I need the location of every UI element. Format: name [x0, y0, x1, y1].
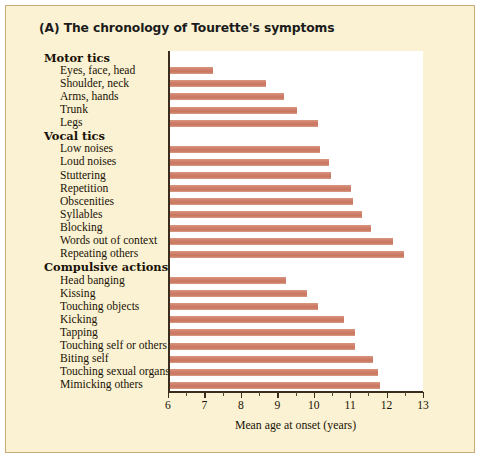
bar	[169, 93, 284, 100]
x-tick-label: 7	[189, 399, 219, 412]
bar	[169, 107, 297, 114]
bar	[169, 67, 213, 74]
category-label: Kissing	[60, 287, 95, 301]
category-label: Touching self or others	[60, 339, 167, 353]
bar	[169, 290, 307, 297]
bar	[169, 316, 344, 323]
x-tick-label: 9	[262, 399, 292, 412]
bar	[169, 356, 373, 363]
group-header-label: Compulsive actions	[44, 260, 168, 274]
x-tick-minor	[186, 392, 187, 396]
category-label: Legs	[60, 116, 83, 130]
bar	[169, 120, 318, 127]
category-label: Obscenities	[60, 195, 114, 209]
x-tick-minor	[223, 392, 224, 396]
figure-panel: (A) The chronology of Tourette's symptom…	[5, 5, 475, 453]
x-tick-label: 13	[408, 399, 438, 412]
bar	[169, 251, 404, 258]
bar	[169, 369, 378, 376]
category-label: Touching objects	[60, 300, 139, 314]
x-tick-label: 12	[372, 399, 402, 412]
category-label: Touching sexual organs	[60, 365, 170, 379]
x-tick-major	[204, 392, 205, 398]
category-label: Arms, hands	[60, 90, 119, 104]
category-label: Words out of context	[60, 234, 157, 248]
bar-chart: Motor ticsEyes, face, headShoulder, neck…	[6, 6, 476, 454]
category-label-column: Motor ticsEyes, face, headShoulder, neck…	[6, 51, 166, 392]
bar	[169, 159, 329, 166]
group-header-label: Motor tics	[44, 51, 110, 65]
bar	[169, 185, 351, 192]
category-label: Mimicking others	[60, 378, 143, 392]
x-tick-label: 11	[335, 399, 365, 412]
bar	[169, 211, 362, 218]
category-label: Shoulder, neck	[60, 77, 129, 91]
bar-series	[168, 51, 423, 392]
category-label: Trunk	[60, 103, 88, 117]
x-tick-label: 6	[153, 399, 183, 412]
category-label: Repeating others	[60, 247, 138, 261]
bar	[169, 238, 393, 245]
bar	[169, 303, 318, 310]
x-tick-major	[423, 392, 424, 398]
bar	[169, 146, 320, 153]
x-tick-major	[241, 392, 242, 398]
x-tick-major	[350, 392, 351, 398]
x-tick-minor	[259, 392, 260, 396]
bar	[169, 225, 371, 232]
x-tick-major	[277, 392, 278, 398]
bar	[169, 172, 331, 179]
category-label: Kicking	[60, 313, 97, 327]
bar	[169, 329, 355, 336]
x-tick-minor	[405, 392, 406, 396]
x-tick-major	[387, 392, 388, 398]
category-label: Eyes, face, head	[60, 64, 135, 78]
x-tick-major	[314, 392, 315, 398]
x-tick-label: 10	[299, 399, 329, 412]
category-label: Stuttering	[60, 169, 106, 183]
category-label: Biting self	[60, 352, 109, 366]
x-axis-title: Mean age at onset (years)	[168, 418, 423, 433]
group-header-label: Vocal tics	[44, 129, 105, 143]
category-label: Syllables	[60, 208, 103, 222]
x-tick-label: 8	[226, 399, 256, 412]
bar	[169, 277, 286, 284]
y-axis-spine	[168, 51, 170, 392]
bar	[169, 198, 353, 205]
category-label: Blocking	[60, 221, 103, 235]
x-tick-major	[168, 392, 169, 398]
bar	[169, 382, 380, 389]
category-label: Loud noises	[60, 155, 116, 169]
bar	[169, 343, 355, 350]
x-tick-minor	[296, 392, 297, 396]
category-label: Repetition	[60, 182, 108, 196]
x-tick-minor	[368, 392, 369, 396]
category-label: Low noises	[60, 142, 113, 156]
category-label: Head banging	[60, 274, 125, 288]
x-tick-minor	[332, 392, 333, 396]
bar	[169, 80, 266, 87]
category-label: Tapping	[60, 326, 98, 340]
